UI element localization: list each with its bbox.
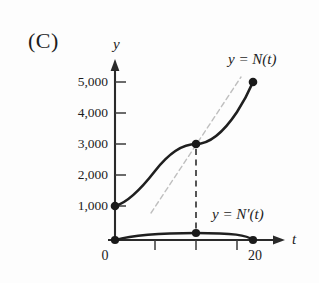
- curve-label-n: y = N(t): [228, 52, 276, 67]
- y-tick-label-2000: 2,000: [53, 168, 108, 182]
- x-tick-label-20: 20: [242, 249, 268, 263]
- y-tick-label-1000: 1,000: [53, 199, 108, 213]
- curve-n-markers: [111, 78, 258, 211]
- x-tick-label-0: 0: [94, 249, 116, 263]
- x-axis-label: t: [292, 232, 296, 247]
- y-tick-label-4000: 4,000: [53, 106, 108, 120]
- point-n-inflection: [192, 140, 201, 149]
- point-n-end: [249, 78, 258, 87]
- point-nprime-start: [111, 236, 119, 244]
- y-tick-label-3000: 3,000: [53, 137, 108, 151]
- y-tick-label-5000: 5,000: [53, 75, 108, 89]
- curve-label-n-prime: y = N′(t): [212, 207, 264, 222]
- point-n-start: [111, 202, 120, 211]
- point-nprime-end: [249, 236, 257, 244]
- panel-label: (C): [28, 30, 59, 52]
- point-nprime-peak: [192, 229, 200, 237]
- y-axis-ticks: [115, 82, 126, 206]
- curve-n-of-t: [115, 82, 253, 206]
- y-axis: [111, 59, 120, 240]
- x-axis-ticks: [155, 240, 237, 250]
- y-axis-label: y: [113, 37, 120, 52]
- figure-panel-c: (C) y t 5,000 4,000 3,000 2,000 1,000 0 …: [0, 0, 319, 283]
